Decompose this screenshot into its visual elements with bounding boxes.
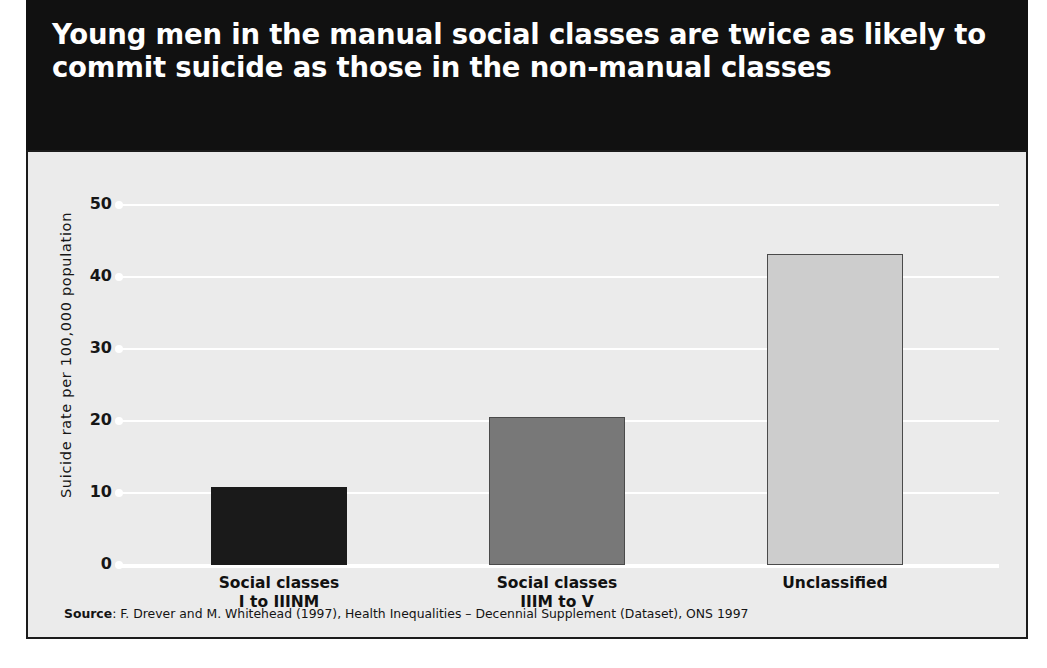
y-axis-tick-label: 10 xyxy=(66,482,112,501)
plot-area: Suicide rate per 100,000 population 0102… xyxy=(28,152,1026,637)
tick-dot xyxy=(115,201,123,209)
y-axis-tick: 10 xyxy=(28,482,112,502)
y-axis-tick: 0 xyxy=(28,554,112,574)
tick-dot xyxy=(115,489,123,497)
bar xyxy=(489,417,625,565)
bar xyxy=(211,487,347,565)
source-label: Source xyxy=(64,606,112,621)
y-axis-tick: 30 xyxy=(28,338,112,358)
title-banner: Young men in the manual social classes a… xyxy=(26,0,1028,152)
y-axis-tick-label: 20 xyxy=(66,410,112,429)
chart-frame: Suicide rate per 100,000 population 0102… xyxy=(26,150,1028,639)
chart-title: Young men in the manual social classes a… xyxy=(52,18,992,84)
tick-dot xyxy=(115,417,123,425)
category-label-line: Social classes xyxy=(140,574,418,593)
y-axis-tick-label: 50 xyxy=(66,194,112,213)
bar xyxy=(767,254,903,565)
chart-page: Young men in the manual social classes a… xyxy=(0,0,1047,668)
y-axis-tick-label: 40 xyxy=(66,266,112,285)
axis-baseline xyxy=(119,565,999,568)
category-label-line: Unclassified xyxy=(696,574,974,593)
y-axis-tick: 50 xyxy=(28,194,112,214)
y-axis-tick-label: 0 xyxy=(66,554,112,573)
gridline xyxy=(119,204,999,206)
category-label: Unclassified xyxy=(696,574,974,593)
source-text: : F. Drever and M. Whitehead (1997), Hea… xyxy=(112,606,748,621)
y-axis-tick: 20 xyxy=(28,410,112,430)
y-axis-tick-label: 30 xyxy=(66,338,112,357)
tick-dot xyxy=(115,345,123,353)
category-label-line: Social classes xyxy=(418,574,696,593)
tick-dot xyxy=(115,273,123,281)
y-axis-tick: 40 xyxy=(28,266,112,286)
source-note: Source: F. Drever and M. Whitehead (1997… xyxy=(64,606,748,621)
